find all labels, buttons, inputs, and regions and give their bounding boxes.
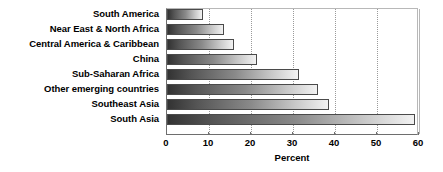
x-tick-label: 40 <box>329 136 340 149</box>
x-tick-label: 20 <box>245 136 256 149</box>
bar-row <box>167 9 419 20</box>
category-axis: South America Near East & North Africa C… <box>0 8 163 135</box>
x-tick-label: 60 <box>413 136 424 149</box>
bar[interactable] <box>167 9 203 20</box>
x-tick-label: 30 <box>287 136 298 149</box>
category-label: Other emerging countries <box>0 83 163 94</box>
bar[interactable] <box>167 69 299 80</box>
category-label: Near East & North Africa <box>0 23 163 34</box>
bar-row <box>167 114 419 125</box>
x-tick-mark <box>250 132 251 135</box>
category-label: Central America & Caribbean <box>0 38 163 49</box>
x-tick-mark <box>208 132 209 135</box>
bar-row <box>167 39 419 50</box>
bar-row <box>167 69 419 80</box>
category-label: China <box>0 53 163 64</box>
bar-chart: South America Near East & North Africa C… <box>0 0 443 172</box>
category-label: South Asia <box>0 113 163 124</box>
x-tick-mark <box>292 132 293 135</box>
x-tick-mark <box>418 132 419 135</box>
x-axis-title: Percent <box>166 152 418 163</box>
bar[interactable] <box>167 84 318 95</box>
x-tick-mark <box>376 132 377 135</box>
x-tick-mark <box>334 132 335 135</box>
bars-layer <box>167 9 417 134</box>
bar-row <box>167 99 419 110</box>
category-label: Sub-Saharan Africa <box>0 68 163 79</box>
x-tick-mark <box>166 132 167 135</box>
bar-row <box>167 24 419 35</box>
x-axis-ticks: 0102030405060 <box>166 136 418 149</box>
bar[interactable] <box>167 54 257 65</box>
bar[interactable] <box>167 114 415 125</box>
category-label: Southeast Asia <box>0 98 163 109</box>
plot-area <box>166 8 418 135</box>
bar[interactable] <box>167 99 329 110</box>
gridline <box>419 9 420 134</box>
category-label: South America <box>0 8 163 19</box>
bar-row <box>167 84 419 95</box>
bar[interactable] <box>167 24 224 35</box>
x-tick-label: 10 <box>203 136 214 149</box>
bar[interactable] <box>167 39 234 50</box>
x-tick-label: 50 <box>371 136 382 149</box>
bar-row <box>167 54 419 65</box>
x-tick-label: 0 <box>163 136 168 149</box>
